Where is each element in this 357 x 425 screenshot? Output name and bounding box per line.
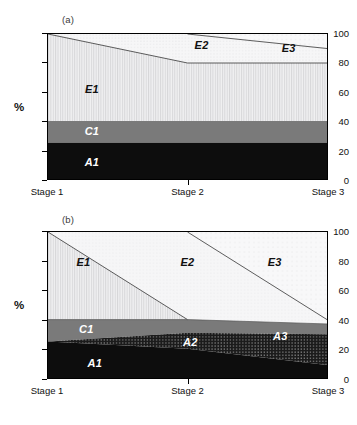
panel-a-ytick-mark bbox=[42, 151, 47, 152]
panel-a-ytick-label: 80 bbox=[338, 57, 349, 68]
panel-b-ytick-label: 20 bbox=[338, 344, 349, 355]
panel-a-ytick-mark bbox=[42, 121, 47, 122]
panel-a-ytick-mark bbox=[42, 92, 47, 93]
panel-a-area-svg bbox=[48, 34, 327, 179]
panel-b-plot-area bbox=[47, 231, 328, 379]
panel-a-ytick-mark bbox=[42, 180, 47, 181]
panel-b-ytick-mark bbox=[42, 320, 47, 321]
panel-a-xtick-mark bbox=[188, 180, 189, 185]
panel-a-xtick-label: Stage 3 bbox=[312, 186, 345, 197]
panel-b-ytick-mark bbox=[42, 261, 47, 262]
panel-a-region-C1 bbox=[48, 121, 327, 143]
chart-panel-b: (b) % bbox=[0, 212, 357, 424]
panel-a-ytick-label: 100 bbox=[333, 28, 349, 39]
panel-a-ytick-mark bbox=[42, 33, 47, 34]
panel-b-tag: (b) bbox=[62, 214, 74, 225]
panel-b-ytick-label: 40 bbox=[338, 314, 349, 325]
panel-b-xtick-label: Stage 3 bbox=[312, 385, 345, 396]
panel-a-ytick-label: 20 bbox=[338, 145, 349, 156]
panel-b-y-axis-title: % bbox=[14, 299, 24, 311]
panel-a-xtick-label: Stage 1 bbox=[31, 186, 64, 197]
panel-b-ytick-mark bbox=[42, 379, 47, 380]
panel-b-ytick-label: 100 bbox=[333, 226, 349, 237]
panel-b-xtick-mark bbox=[188, 379, 189, 384]
panel-a-ytick-label: 40 bbox=[338, 116, 349, 127]
panel-b-ytick-label: 0 bbox=[344, 374, 349, 385]
panel-b-ytick-mark bbox=[42, 349, 47, 350]
panel-a-ytick-mark bbox=[42, 62, 47, 63]
panel-a-xtick-label: Stage 2 bbox=[171, 186, 204, 197]
panel-b-ytick-label: 80 bbox=[338, 255, 349, 266]
panel-b-xtick-label: Stage 1 bbox=[31, 385, 64, 396]
chart-panel-a: (a) % bbox=[0, 0, 357, 212]
panel-b-area-svg bbox=[48, 232, 327, 378]
panel-a-y-axis-title: % bbox=[14, 101, 24, 113]
panel-b-ytick-label: 60 bbox=[338, 285, 349, 296]
panel-a-ytick-label: 0 bbox=[344, 175, 349, 186]
panel-b-ytick-mark bbox=[42, 231, 47, 232]
panel-b-xtick-label: Stage 2 bbox=[171, 385, 204, 396]
panel-a-ytick-label: 60 bbox=[338, 86, 349, 97]
panel-a-tag: (a) bbox=[62, 14, 74, 25]
panel-b-ytick-mark bbox=[42, 290, 47, 291]
panel-a-region-A1 bbox=[48, 143, 327, 179]
panel-a-plot-area bbox=[47, 33, 328, 180]
